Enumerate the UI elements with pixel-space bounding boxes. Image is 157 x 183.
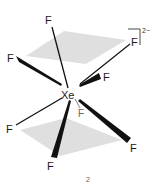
ligand-label-bottom: F (47, 160, 54, 172)
ligand-label-upper-left: F (7, 52, 14, 64)
ligand-label-top: F (45, 14, 52, 26)
charge-label: 2− (142, 27, 150, 34)
ligand-label-back-lower: F (78, 108, 84, 119)
wedge-upper-left (16, 56, 62, 86)
wedge-mid-right (79, 73, 101, 87)
xef8-square-antiprism-diagram: Xe F F F F F F F F 2− 2 (0, 0, 157, 183)
caption-label: 2 (86, 176, 90, 183)
ligand-label-lower-right: F (130, 142, 137, 154)
central-atom-label: Xe (61, 89, 74, 101)
ligand-label-mid-right: F (103, 71, 110, 83)
ligand-label-upper-right: F (131, 36, 138, 48)
ligand-label-lower-left: F (6, 123, 13, 135)
